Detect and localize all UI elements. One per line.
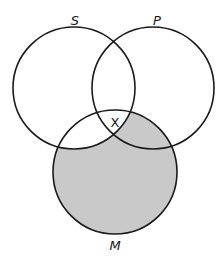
marker-x: X	[111, 115, 120, 130]
venn-diagram: S P M X	[0, 0, 224, 259]
label-s: S	[71, 13, 79, 28]
label-p: P	[153, 13, 161, 28]
label-m: M	[109, 238, 120, 253]
